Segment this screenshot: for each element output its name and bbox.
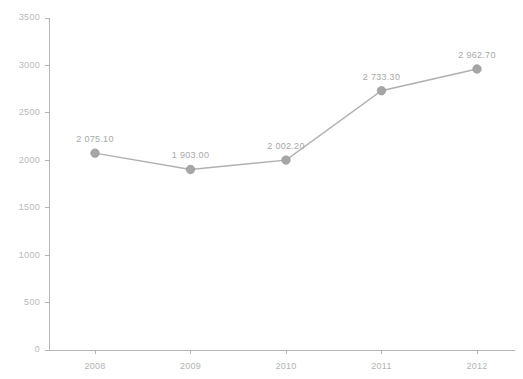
chart-canvas: 0500100015002000250030003500 20082009201… bbox=[0, 0, 523, 379]
y-axis-tick-label: 2500 bbox=[19, 107, 40, 117]
data-point-marker bbox=[473, 65, 481, 73]
data-point-value-label: 2 075.10 bbox=[76, 134, 113, 144]
y-axis-tick-label: 2000 bbox=[19, 155, 40, 165]
y-axis-tick-label: 1500 bbox=[19, 202, 40, 212]
y-axis-tick-marks bbox=[45, 18, 49, 350]
data-point-marker bbox=[186, 165, 194, 173]
data-point-labels: 2 075.101 903.002 002.202 733.302 962.70 bbox=[76, 50, 495, 161]
data-point-value-label: 1 903.00 bbox=[172, 150, 209, 160]
y-axis-tick-label: 3000 bbox=[19, 60, 40, 70]
data-point-value-label: 2 962.70 bbox=[458, 50, 495, 60]
y-axis-tick-label: 3500 bbox=[19, 12, 40, 22]
x-axis-tick-labels: 20082009201020112012 bbox=[84, 361, 487, 371]
data-point-marker bbox=[282, 156, 290, 164]
x-axis-tick-label: 2008 bbox=[84, 361, 105, 371]
x-axis-tick-label: 2012 bbox=[466, 361, 487, 371]
y-axis-tick-labels: 0500100015002000250030003500 bbox=[19, 12, 40, 354]
line-chart: 0500100015002000250030003500 20082009201… bbox=[0, 0, 523, 379]
data-point-marker bbox=[91, 149, 99, 157]
x-axis-tick-marks bbox=[95, 350, 477, 354]
y-axis-tick-label: 500 bbox=[24, 297, 40, 307]
y-axis-tick-label: 1000 bbox=[19, 250, 40, 260]
data-point-value-label: 2 002.20 bbox=[267, 141, 304, 151]
data-point-value-label: 2 733.30 bbox=[363, 72, 400, 82]
x-axis-tick-label: 2009 bbox=[180, 361, 201, 371]
data-series-line bbox=[95, 69, 477, 170]
x-axis-tick-label: 2011 bbox=[371, 361, 392, 371]
data-point-marker bbox=[377, 87, 385, 95]
x-axis-tick-label: 2010 bbox=[275, 361, 296, 371]
y-axis-tick-label: 0 bbox=[35, 344, 40, 354]
